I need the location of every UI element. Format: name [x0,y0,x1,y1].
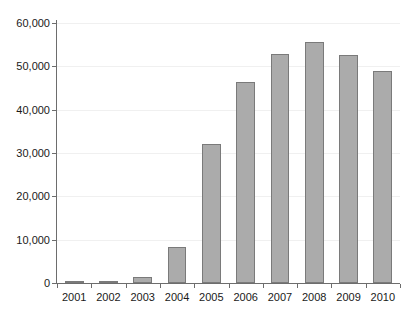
y-axis-tick-mark [52,110,57,111]
x-axis-tick-label-2004: 2004 [160,291,194,303]
bar-chart-figure: 010,00020,00030,00040,00050,00060,000 20… [0,0,416,319]
y-axis-tick-label: 50,000 [16,61,50,72]
bar-slot [126,23,160,283]
x-axis-tick-label-2009: 2009 [331,291,365,303]
bar-2004[interactable] [168,247,187,283]
bar-2001[interactable] [65,281,84,283]
y-axis-tick-mark [52,153,57,154]
x-axis-tick-mark [194,284,195,288]
x-axis-tick-mark [297,284,298,288]
bar-slot [194,23,228,283]
x-axis-tick-mark [91,284,92,288]
bar-slot [331,23,365,283]
y-axis-tick-mark [52,240,57,241]
y-axis-tick-mark [52,23,57,24]
y-axis-tick-label: 60,000 [16,18,50,29]
x-axis-tick-mark [366,284,367,288]
y-axis-tick-mark [52,66,57,67]
bar-2006[interactable] [236,82,255,284]
x-axis-tick-label-2008: 2008 [297,291,331,303]
x-axis-tick-label-2002: 2002 [91,291,125,303]
x-axis-tick-label-2003: 2003 [126,291,160,303]
x-axis-tick-label-2005: 2005 [194,291,228,303]
bar-2007[interactable] [271,54,290,283]
y-axis-tick-label: 30,000 [16,148,50,159]
plot-area [57,23,400,283]
y-axis-tick-label: 40,000 [16,105,50,116]
bar-slot [229,23,263,283]
bar-2005[interactable] [202,144,221,283]
x-axis-tick-mark [263,284,264,288]
x-axis-tick-label-2006: 2006 [229,291,263,303]
x-axis-tick-mark [126,284,127,288]
bar-slot [263,23,297,283]
y-axis-tick-label: 10,000 [16,235,50,246]
bar-slot [297,23,331,283]
x-axis-tick-label-2001: 2001 [57,291,91,303]
bar-slot [366,23,400,283]
x-axis-tick-mark [57,284,58,288]
bar-slot [57,23,91,283]
y-axis-tick-mark [52,196,57,197]
x-axis-tick-mark [160,284,161,288]
bar-2008[interactable] [305,42,324,283]
bar-2009[interactable] [339,55,358,283]
x-axis-tick-mark [331,284,332,288]
bar-2003[interactable] [133,277,152,284]
bar-2010[interactable] [373,71,392,283]
y-axis-tick-label: 20,000 [16,191,50,202]
x-axis-tick-label-2007: 2007 [263,291,297,303]
bar-slot [160,23,194,283]
y-axis-tick-labels: 010,00020,00030,00040,00050,00060,000 [0,0,50,319]
bar-slot [91,23,125,283]
x-axis-tick-mark [229,284,230,288]
x-axis-tick-mark [400,284,401,288]
bar-2002[interactable] [99,281,118,283]
x-axis-tick-label-2010: 2010 [366,291,400,303]
y-axis-tick-label: 0 [44,278,50,289]
